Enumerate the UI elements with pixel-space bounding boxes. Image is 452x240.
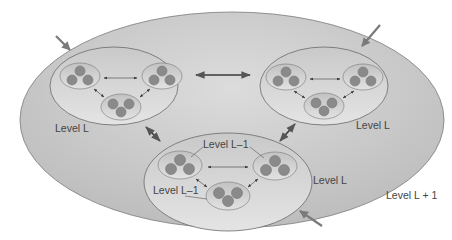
- arrow-in-top-left: [56, 36, 70, 50]
- cluster: [60, 63, 100, 89]
- group-top-right: [260, 47, 388, 125]
- cluster: [304, 93, 344, 119]
- cluster: [266, 64, 306, 90]
- label-outer-level: Level L + 1: [386, 190, 437, 201]
- label-top-right-level: Level L: [356, 120, 390, 131]
- cluster: [101, 94, 141, 120]
- cluster: [343, 64, 383, 90]
- label-sub-level-left: Level L–1: [153, 185, 199, 196]
- cluster: [142, 63, 182, 89]
- cluster: [253, 152, 297, 180]
- label-top-left-level: Level L: [55, 123, 89, 134]
- cluster: [158, 151, 202, 179]
- label-sub-level-top: Level L–1: [203, 139, 249, 150]
- cluster: [206, 182, 250, 210]
- label-bottom-level: Level L: [313, 175, 347, 186]
